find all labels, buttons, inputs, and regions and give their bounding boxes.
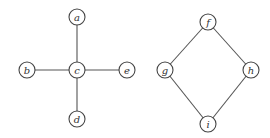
node-e: e [119,62,135,78]
node-d: d [69,111,85,127]
node-label-g: g [162,65,168,76]
node-label-a: a [74,12,80,23]
edge-f-g [165,22,208,70]
graph-diagram: a b c e d f g h i [0,0,270,138]
star-graph: a b c e d [19,9,135,127]
edge-g-i [165,70,208,124]
node-label-c: c [74,65,80,76]
node-g: g [157,62,173,78]
node-a: a [69,9,85,25]
node-label-h: h [248,65,254,76]
node-label-d: d [74,114,80,125]
edge-f-h [208,22,251,70]
node-c: c [69,62,85,78]
edge-h-i [208,70,251,124]
node-label-e: e [124,65,130,76]
node-i: i [200,116,216,132]
cycle-graph: f g h i [157,14,259,132]
node-b: b [19,62,35,78]
node-f: f [200,14,216,30]
node-h: h [243,62,259,78]
node-label-i: i [206,119,209,130]
node-label-b: b [24,65,30,76]
